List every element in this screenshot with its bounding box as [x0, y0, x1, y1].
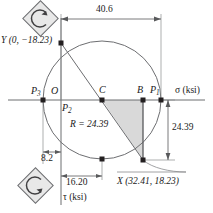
point-marker-B [141, 98, 146, 103]
dim-label-bottom-mid: 16.20 [66, 178, 87, 188]
bottom-rotation-icon-group [18, 168, 53, 203]
sigma-axis-label: σ (ksi) [175, 86, 200, 96]
bottom-rotation-diamond [18, 168, 53, 203]
dim-label-top: 40.6 [96, 5, 113, 15]
point-label-P3-sub: 3 [37, 90, 41, 98]
top-rotation-icon-group [23, 1, 58, 36]
point-label-O: O [51, 86, 58, 96]
dim-label-right: 24.39 [172, 123, 193, 133]
dim-right-arrow-bottom [166, 153, 171, 160]
point-label-P1-sub: 1 [156, 89, 160, 97]
point-label-Y: Y (0, −18.23) [1, 36, 52, 46]
dim-82-arrow-right [55, 150, 61, 154]
point-marker-C [100, 98, 105, 103]
tau-axis-label: τ (ksi) [63, 193, 87, 203]
point-label-C: C [99, 85, 106, 95]
point-label-P1: P1 [150, 85, 160, 97]
top-rotation-diamond [23, 1, 58, 36]
mohrs-circle-figure: Y (0, −18.23) X (32.41, 18.23) P3 O P2 C… [0, 0, 213, 213]
dim-top-arrow-left [61, 17, 68, 22]
point-marker-Y [59, 41, 64, 46]
point-label-B: B [137, 85, 143, 95]
diagram-canvas [0, 0, 213, 213]
dim-label-radius: R = 24.39 [70, 120, 108, 130]
leader-line-X [143, 160, 186, 172]
dim-label-bottom-left: 8.2 [41, 154, 53, 164]
point-label-P2: P2 [62, 103, 72, 115]
point-marker-P1 [159, 98, 164, 103]
point-marker-P3 [41, 98, 46, 103]
point-label-P2-sub: 2 [68, 107, 72, 115]
point-marker-X [141, 158, 146, 163]
dim-1620-arrow-right [96, 174, 102, 178]
dim-right-arrow-top [166, 100, 171, 107]
point-label-X: X (32.41, 18.23) [117, 177, 179, 187]
point-label-P3: P3 [31, 86, 41, 98]
point-marker-bottom [100, 157, 105, 162]
dim-top-arrow-right [154, 17, 161, 22]
